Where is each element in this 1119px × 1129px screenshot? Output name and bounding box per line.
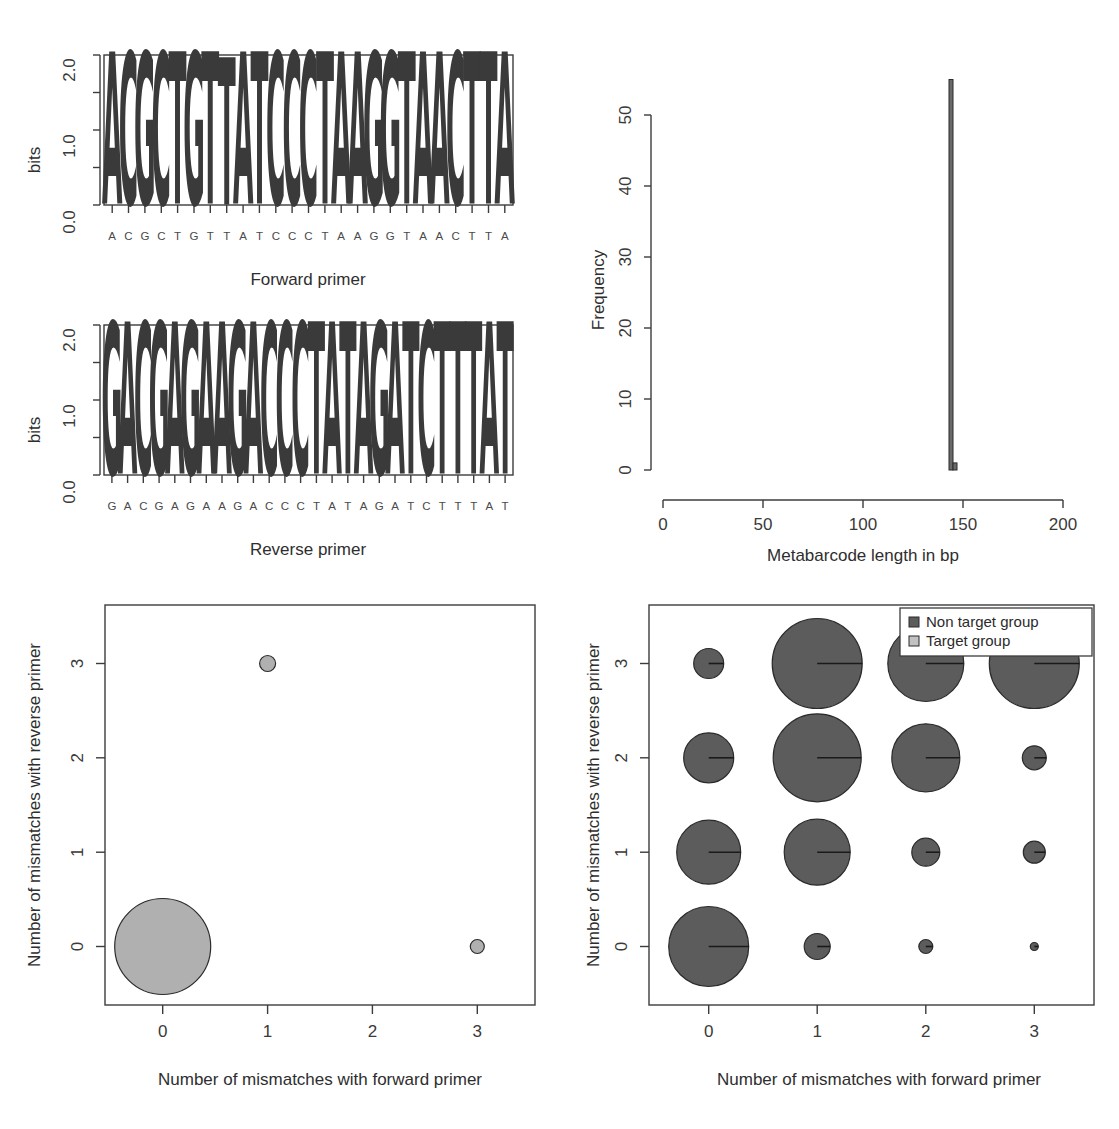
sequence-base-C: C: [124, 230, 132, 242]
sequence-base-G: G: [190, 230, 199, 242]
bubble-point: [470, 940, 484, 954]
histogram-xticks: 050100150200: [658, 500, 1077, 534]
sequence-base-T: T: [502, 500, 509, 512]
sequence-base-G: G: [233, 500, 242, 512]
sequence-base-C: C: [265, 500, 273, 512]
bubble-point: [260, 656, 276, 672]
histogram-xtick-label: 200: [1049, 515, 1077, 534]
nontarget-bubble-ylabel: Number of mismatches with reverse primer: [584, 643, 603, 967]
bubble-xtick-label: 3: [1030, 1022, 1039, 1041]
sequence-base-A: A: [108, 230, 116, 242]
sequence-base-A: A: [354, 230, 362, 242]
forward-logo-ytick-0: 0.0: [60, 210, 79, 234]
legend-label-target: Target group: [926, 632, 1010, 649]
sequence-base-A: A: [328, 500, 336, 512]
sequence-base-T: T: [321, 230, 328, 242]
histogram-bar: [949, 80, 953, 471]
nontarget-bubble-yticks: 0123: [612, 659, 649, 951]
histogram-yticks: 01020304050: [616, 106, 651, 475]
target-bubble-xlabel: Number of mismatches with forward primer: [158, 1070, 482, 1089]
sequence-base-A: A: [124, 500, 132, 512]
histogram-ytick-label: 10: [616, 390, 635, 409]
bubble-xtick-label: 1: [812, 1022, 821, 1041]
sequence-base-G: G: [107, 500, 116, 512]
bubble-ytick-label: 3: [68, 659, 87, 668]
sequence-base-A: A: [391, 500, 399, 512]
reverse-logo-ytick-2: 2.0: [60, 328, 79, 352]
sequence-base-C: C: [304, 230, 312, 242]
logo-base-T: T: [449, 280, 466, 523]
reverse-logo-letters: GACGAGAAGACCCTATAGATCTTTAT: [101, 280, 513, 523]
histogram-bar: [953, 463, 957, 470]
bubble-ytick-label: 3: [612, 659, 631, 668]
legend-swatch-target: [909, 636, 919, 646]
bubble-ytick-label: 2: [612, 753, 631, 762]
reverse-primer-logo-svg: bits 2.0 1.0 0.0 GACGAGAAGACCCTATAGATCTT…: [0, 290, 560, 580]
sequence-base-A: A: [486, 500, 494, 512]
reverse-logo-ytick-1: 1.0: [60, 404, 79, 428]
histogram-ytick-label: 30: [616, 248, 635, 267]
histogram-ytick-label: 50: [616, 106, 635, 125]
bubble-xtick-label: 2: [921, 1022, 930, 1041]
logo-base-T: T: [201, 10, 219, 253]
bubble-point: [115, 899, 211, 995]
sequence-base-G: G: [386, 230, 395, 242]
logo-base-A: A: [495, 10, 515, 253]
logo-base-T: T: [496, 280, 513, 523]
sequence-base-A: A: [250, 500, 258, 512]
nontarget-bubble-xlabel: Number of mismatches with forward primer: [717, 1070, 1041, 1089]
forward-logo-yaxis: [93, 55, 100, 205]
bubble-ytick-label: 0: [68, 942, 87, 951]
sequence-base-T: T: [470, 500, 477, 512]
target-group-bubble-panel: Number of mismatches with reverse primer…: [0, 580, 560, 1129]
bubble-legend[interactable]: Non target group Target group: [900, 608, 1092, 656]
nontarget-bubble-xticks: 0123: [704, 1005, 1039, 1041]
histogram-xtick-label: 100: [849, 515, 877, 534]
reverse-primer-caption: Reverse primer: [250, 540, 367, 559]
bubble-ytick-label: 1: [68, 847, 87, 856]
sequence-base-C: C: [288, 230, 296, 242]
histogram-ylabel: Frequency: [589, 249, 608, 330]
sequence-base-C: C: [422, 500, 430, 512]
bubble-ytick-label: 0: [612, 942, 631, 951]
bubble-xtick-label: 2: [368, 1022, 377, 1041]
sequence-base-A: A: [360, 500, 368, 512]
sequence-base-T: T: [174, 230, 181, 242]
legend-label-non-target: Non target group: [926, 613, 1039, 630]
sequence-base-G: G: [155, 500, 164, 512]
forward-logo-ylabel: bits: [25, 147, 44, 173]
sequence-base-T: T: [256, 230, 263, 242]
histogram-ytick-label: 20: [616, 319, 635, 338]
sequence-base-T: T: [313, 500, 320, 512]
target-group-bubble-svg: Number of mismatches with reverse primer…: [0, 580, 560, 1129]
nontarget-bubble-points: [669, 619, 1080, 987]
histogram-xlabel: Metabarcode length in bp: [767, 546, 959, 565]
reverse-primer-logo-panel: bits 2.0 1.0 0.0 GACGAGAAGACCCTATAGATCTT…: [0, 290, 560, 580]
forward-logo-ytick-1: 1.0: [60, 134, 79, 158]
target-bubble-yticks: 0123: [68, 659, 105, 951]
sequence-base-A: A: [171, 500, 179, 512]
bubble-xtick-label: 3: [473, 1022, 482, 1041]
metabarcode-histogram-svg: Frequency 01020304050 050100150200 Metab…: [559, 0, 1119, 580]
sequence-base-C: C: [157, 230, 165, 242]
sequence-base-C: C: [139, 500, 147, 512]
bubble-xtick-label: 1: [263, 1022, 272, 1041]
bubble-ytick-label: 1: [612, 847, 631, 856]
bubble-ytick-label: 2: [68, 753, 87, 762]
sequence-base-G: G: [186, 500, 195, 512]
reverse-logo-ylabel: bits: [25, 417, 44, 443]
metabarcode-histogram-panel: Frequency 01020304050 050100150200 Metab…: [559, 0, 1119, 580]
target-bubble-points: [115, 656, 485, 995]
sequence-base-T: T: [223, 230, 230, 242]
forward-logo-ytick-2: 2.0: [60, 58, 79, 82]
bubble-xtick-label: 0: [704, 1022, 713, 1041]
sequence-base-G: G: [375, 500, 384, 512]
non-target-group-bubble-panel: Number of mismatches with reverse primer…: [559, 580, 1119, 1129]
forward-primer-logo-panel: bits 2.0 1.0 0.0 ACGCTGTTATCCCTAAGGTAACT…: [0, 20, 560, 310]
sequence-base-A: A: [337, 230, 345, 242]
forward-logo-letters: ACGCTGTTATCCCTAAGGTAACTTA: [102, 10, 515, 253]
bubble-xtick-label: 0: [158, 1022, 167, 1041]
sequence-base-T: T: [469, 230, 476, 242]
reverse-logo-ytick-0: 0.0: [60, 480, 79, 504]
legend-swatch-non-target: [909, 617, 919, 627]
